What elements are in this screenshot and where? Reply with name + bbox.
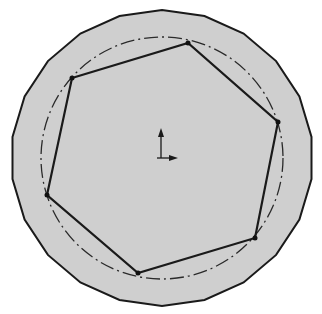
vertex-point[interactable]: [70, 76, 75, 81]
sketch-canvas: [0, 0, 322, 314]
vertex-point[interactable]: [45, 193, 50, 198]
vertex-point[interactable]: [186, 41, 191, 46]
vertex-point[interactable]: [136, 271, 141, 276]
vertex-point[interactable]: [276, 120, 281, 125]
sketch-svg: [0, 0, 322, 314]
vertex-point[interactable]: [253, 236, 258, 241]
